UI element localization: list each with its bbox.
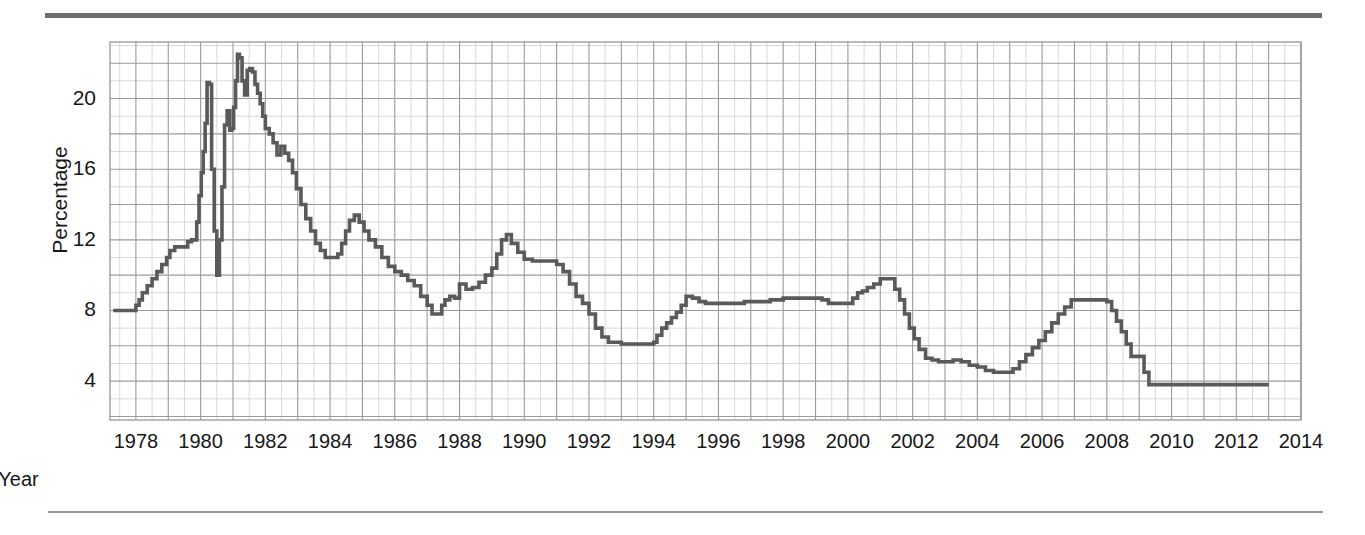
x-axis-title-text: Year — [0, 468, 39, 490]
figure-container: 48121620 1978198019821984198619881990199… — [0, 0, 1365, 535]
chart-plot-area: 48121620 1978198019821984198619881990199… — [0, 0, 1365, 535]
y-tick-label: 20 — [36, 86, 96, 110]
y-tick-label: 8 — [36, 297, 96, 321]
x-tick-label: 2014 — [1261, 430, 1341, 453]
line-chart-svg — [0, 0, 1365, 535]
y-axis-title: Percentage — [48, 120, 72, 280]
data-series-line — [113, 54, 1268, 384]
y-tick-label: 4 — [36, 368, 96, 392]
x-axis-title: Year — [0, 468, 1365, 491]
